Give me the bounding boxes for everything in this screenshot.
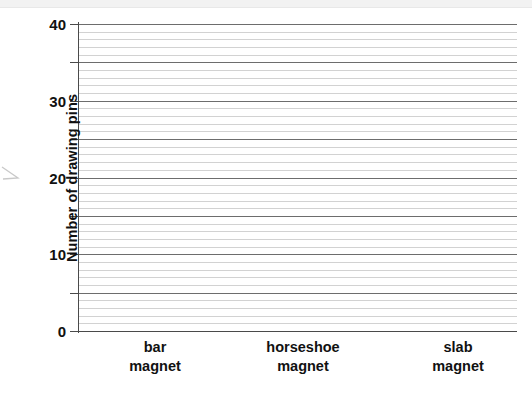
category-label-line1: bar — [129, 338, 181, 357]
x-axis-category-1: barmagnet — [129, 338, 181, 376]
gridline-minor — [78, 131, 517, 132]
gridline-major — [78, 139, 517, 140]
gridline-minor — [78, 85, 517, 86]
y-axis-tick-label: 40 — [36, 17, 66, 32]
gridline-minor — [78, 78, 517, 79]
arrow-artifact-icon — [1, 165, 21, 183]
y-axis-tick — [70, 24, 78, 25]
category-label-line2: magnet — [266, 357, 339, 376]
gridline-minor — [78, 277, 517, 278]
y-axis-tick-labels: 010203040 — [32, 0, 66, 393]
gridline-major — [78, 254, 517, 255]
gridline-minor — [78, 185, 517, 186]
scan-top-band-edge — [0, 7, 532, 8]
gridline-minor — [78, 300, 517, 301]
gridline-major — [78, 178, 517, 179]
gridline-minor — [78, 239, 517, 240]
category-label-line2: magnet — [129, 357, 181, 376]
y-axis-title: Number of drawing pins — [64, 58, 80, 298]
category-label-line1: horseshoe — [266, 338, 339, 357]
gridline-minor — [78, 170, 517, 171]
gridline-minor — [78, 285, 517, 286]
chart-page: 010203040 Number of drawing pins barmagn… — [0, 0, 532, 393]
x-axis-line — [71, 331, 517, 332]
gridline-minor — [78, 316, 517, 317]
gridline-minor — [78, 224, 517, 225]
gridline-minor — [78, 108, 517, 109]
gridline-minor — [78, 193, 517, 194]
y-axis-tick-label: 20 — [36, 171, 66, 186]
gridline-minor — [78, 262, 517, 263]
category-label-line2: magnet — [432, 357, 484, 376]
gridline-minor — [78, 93, 517, 94]
gridline-minor — [78, 270, 517, 271]
gridline-minor — [78, 208, 517, 209]
gridline-minor — [78, 162, 517, 163]
gridline-minor — [78, 32, 517, 33]
gridline-major — [78, 62, 517, 63]
x-axis-category-labels: barmagnethorseshoemagnetslabmagnet — [0, 338, 532, 386]
gridline-minor — [78, 323, 517, 324]
gridline-minor — [78, 55, 517, 56]
gridline-minor — [78, 39, 517, 40]
y-axis-tick-label: 10 — [36, 247, 66, 262]
gridline-minor — [78, 70, 517, 71]
y-axis-tick-label: 0 — [36, 324, 66, 339]
plot-grid-area — [78, 24, 517, 331]
gridline-minor — [78, 124, 517, 125]
y-axis-tick-label: 30 — [36, 94, 66, 109]
gridline-minor — [78, 47, 517, 48]
gridline-minor — [78, 308, 517, 309]
gridline-minor — [78, 201, 517, 202]
gridline-minor — [78, 231, 517, 232]
gridline-major — [78, 293, 517, 294]
y-axis-title-host: Number of drawing pins — [30, 0, 31, 393]
category-label-line1: slab — [432, 338, 484, 357]
gridline-minor — [78, 116, 517, 117]
gridline-minor — [78, 147, 517, 148]
gridline-major — [78, 216, 517, 217]
x-axis-category-3: slabmagnet — [432, 338, 484, 376]
y-axis-tick — [70, 331, 78, 332]
gridline-major — [78, 24, 517, 25]
gridline-minor — [78, 247, 517, 248]
gridline-minor — [78, 154, 517, 155]
x-axis-category-2: horseshoemagnet — [266, 338, 339, 376]
scan-top-band — [0, 0, 532, 7]
gridline-major — [78, 101, 517, 102]
